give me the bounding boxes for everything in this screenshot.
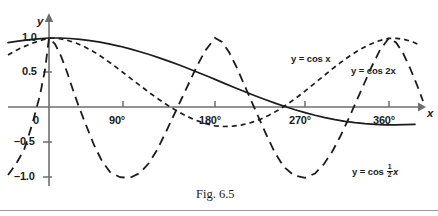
y-tick-label-neg-1-0: –1.0: [14, 171, 35, 182]
curve-cos-half-x: [8, 38, 415, 125]
one-half-fraction: 12: [387, 164, 393, 179]
y-tick-label-neg-0-5: –0.5: [14, 136, 35, 147]
cosine-curves-plot: [0, 0, 438, 216]
y-tick-marks: [43, 72, 52, 177]
x-tick-marks: [123, 101, 389, 107]
curve-label-cos-half-x-suffix: x: [393, 166, 398, 177]
curve-label-cos-2x: y = cos 2x: [351, 66, 396, 76]
x-axis-arrow-icon: [418, 103, 426, 112]
y-axis-label: y: [37, 16, 43, 28]
curve-label-cos-x: y = cos x: [291, 54, 331, 64]
x-tick-label-360: 360°: [373, 115, 395, 126]
x-axis-label: x: [427, 108, 433, 120]
curve-label-cos-half-x: y = cos 12x: [352, 164, 398, 179]
bottom-divider: [0, 210, 438, 211]
fraction-denominator: 2: [387, 172, 393, 179]
curve-label-cos-half-x-prefix: y = cos: [352, 166, 386, 177]
figure-caption: Fig. 6.5: [196, 188, 235, 201]
figure-6-5: y x 1.0 0.5 0 –0.5 –1.0 90° 180° 270° 36…: [0, 0, 438, 216]
x-tick-label-180: 180°: [199, 115, 221, 126]
y-tick-label-0: 0: [33, 115, 39, 126]
x-tick-label-90: 90°: [109, 115, 125, 126]
x-tick-label-270: 270°: [289, 115, 311, 126]
y-tick-label-0-5: 0.5: [22, 66, 37, 77]
curve-cos-2x: [8, 38, 423, 178]
y-tick-label-1-0: 1.0: [22, 32, 37, 43]
y-axis-arrow-icon: [45, 13, 53, 22]
